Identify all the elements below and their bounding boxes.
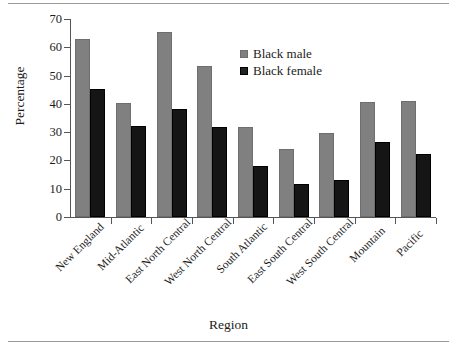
y-axis-tick	[64, 217, 70, 218]
legend-swatch-female	[240, 67, 248, 75]
x-axis-category-label: East South Central	[245, 216, 314, 285]
bar-black-female	[375, 142, 390, 217]
bar-black-female	[90, 89, 105, 217]
x-axis-tick	[395, 218, 396, 224]
x-axis-tick	[151, 218, 152, 224]
legend-label: Black male	[253, 47, 312, 60]
bar-black-male	[319, 133, 334, 217]
bar-black-male	[360, 102, 375, 217]
y-axis-tick-label: 50	[22, 70, 62, 82]
x-axis-title: Region	[0, 317, 457, 333]
y-axis-tick-label: 0	[22, 211, 62, 223]
chart-legend: Black maleBlack female	[240, 46, 322, 78]
x-axis-tick	[111, 218, 112, 224]
bar-black-male	[75, 39, 90, 217]
x-axis-tick	[355, 218, 356, 224]
bar-black-female	[212, 127, 227, 217]
bar-black-female	[253, 166, 268, 217]
x-axis-category-label: East North Central	[123, 216, 192, 285]
x-axis-category-label: New England	[53, 221, 106, 274]
bar-black-male	[157, 32, 172, 217]
legend-item: Black female	[240, 63, 322, 78]
y-axis-tick-label: 40	[22, 98, 62, 110]
y-axis-tick-label: 10	[22, 183, 62, 195]
bar-black-female	[294, 184, 309, 217]
bar-black-male	[197, 66, 212, 217]
bar-chart-figure: 010203040506070 New EnglandMid-AtlanticE…	[0, 0, 457, 356]
x-axis-category-label: West South Central	[284, 216, 356, 288]
x-axis-category-label: South Atlantic	[214, 220, 269, 275]
x-axis-category-label: Pacific	[394, 227, 425, 258]
y-axis-tick-label: 30	[22, 126, 62, 138]
x-axis-tick	[233, 218, 234, 224]
x-axis-tick	[314, 218, 315, 224]
bar-black-female	[416, 154, 431, 217]
bar-black-female	[131, 126, 146, 217]
top-divider-rule	[8, 3, 449, 4]
x-axis-tick	[436, 218, 437, 224]
x-axis-tick	[273, 218, 274, 224]
x-axis-category-label: Mid-Atlantic	[95, 222, 146, 273]
x-axis-category-label: Mountain	[347, 225, 387, 265]
y-axis-tick-label: 70	[22, 13, 62, 25]
x-axis-category-label: West North Central	[162, 216, 234, 288]
y-axis-tick-label: 60	[22, 41, 62, 53]
x-axis-tick	[192, 218, 193, 224]
bottom-divider-rule	[8, 341, 449, 342]
bar-black-female	[334, 180, 349, 217]
x-axis-line	[70, 217, 436, 218]
bar-black-male	[401, 101, 416, 217]
bar-black-male	[238, 127, 253, 218]
legend-label: Black female	[253, 64, 322, 77]
legend-swatch-male	[240, 50, 248, 58]
bar-black-female	[172, 109, 187, 217]
bar-black-male	[279, 149, 294, 217]
y-axis-title: Percentage	[12, 26, 28, 166]
y-axis-tick-label: 20	[22, 154, 62, 166]
bar-black-male	[116, 103, 131, 217]
legend-item: Black male	[240, 46, 322, 61]
